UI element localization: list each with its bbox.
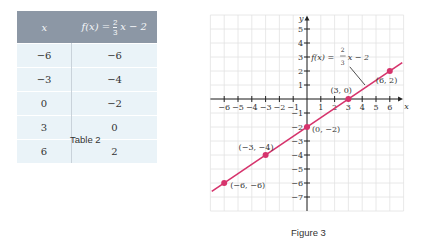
svg-text:−6: −6 — [291, 179, 303, 188]
svg-text:5: 5 — [373, 103, 378, 112]
svg-text:4: 4 — [360, 103, 365, 112]
svg-text:−5: −5 — [291, 165, 303, 174]
svg-text:2: 2 — [341, 46, 345, 53]
svg-text:1: 1 — [318, 103, 323, 112]
svg-text:3: 3 — [341, 59, 345, 66]
svg-text:−3: −3 — [291, 137, 303, 146]
svg-text:−4: −4 — [291, 151, 303, 160]
svg-text:5: 5 — [298, 25, 303, 34]
svg-text:−4: −4 — [246, 103, 258, 112]
svg-text:(0, −2): (0, −2) — [312, 125, 340, 134]
svg-text:f(x) =: f(x) = — [310, 53, 334, 62]
svg-text:−5: −5 — [232, 103, 244, 112]
svg-text:−3: −3 — [260, 103, 272, 112]
svg-text:x: x — [404, 102, 409, 111]
svg-text:(−6, −6): (−6, −6) — [230, 181, 265, 190]
svg-text:x − 2: x − 2 — [348, 53, 369, 62]
svg-text:2: 2 — [298, 67, 303, 76]
svg-text:−1: −1 — [291, 109, 303, 118]
svg-text:6: 6 — [387, 103, 392, 112]
svg-text:−2: −2 — [274, 103, 286, 112]
svg-text:y: y — [298, 14, 304, 23]
svg-text:(−3, −4): (−3, −4) — [239, 143, 274, 152]
line-plot: −6−5−4−3−2−1123456−7−6−5−4−3−2−112345xy(… — [0, 0, 424, 242]
svg-text:3: 3 — [298, 53, 303, 62]
svg-text:4: 4 — [298, 39, 303, 48]
svg-text:3: 3 — [346, 103, 351, 112]
svg-text:1: 1 — [298, 81, 303, 90]
svg-text:(3, 0): (3, 0) — [330, 86, 352, 95]
svg-text:−6: −6 — [218, 103, 230, 112]
svg-text:(6, 2): (6, 2) — [376, 76, 398, 85]
figure-caption: Figure 3 — [291, 227, 326, 238]
svg-text:−7: −7 — [291, 193, 303, 202]
